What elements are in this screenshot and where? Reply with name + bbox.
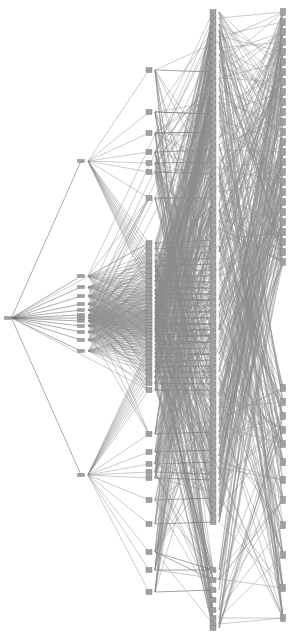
graph-node[interactable]: [146, 375, 152, 380]
graph-node[interactable]: [210, 154, 216, 159]
graph-node[interactable]: [210, 568, 216, 573]
graph-node[interactable]: [210, 340, 216, 345]
graph-node[interactable]: [146, 247, 152, 252]
graph-node[interactable]: [210, 358, 216, 363]
graph-node[interactable]: [146, 522, 152, 527]
graph-node[interactable]: [146, 381, 152, 386]
graph-node[interactable]: [210, 274, 216, 279]
graph-node[interactable]: [146, 370, 152, 375]
graph-node[interactable]: [281, 79, 286, 86]
graph-node[interactable]: [281, 169, 286, 176]
graph-node[interactable]: [281, 39, 286, 46]
graph-node[interactable]: [146, 170, 152, 175]
graph-node[interactable]: [281, 209, 286, 216]
graph-node[interactable]: [281, 19, 286, 26]
graph-node[interactable]: [146, 196, 152, 201]
graph-node[interactable]: [210, 16, 216, 21]
graph-node[interactable]: [210, 238, 216, 243]
graph-node[interactable]: [146, 355, 152, 360]
graph-node[interactable]: [210, 88, 216, 93]
graph-node[interactable]: [146, 150, 152, 155]
graph-node[interactable]: [210, 418, 216, 423]
graph-node[interactable]: [210, 292, 216, 297]
graph-node[interactable]: [281, 199, 286, 206]
graph-node[interactable]: [78, 286, 85, 289]
graph-node[interactable]: [210, 34, 216, 39]
graph-node[interactable]: [281, 129, 286, 136]
graph-node[interactable]: [210, 94, 216, 99]
graph-node[interactable]: [281, 69, 286, 76]
graph-node[interactable]: [210, 514, 216, 519]
graph-node[interactable]: [210, 442, 216, 447]
graph-node[interactable]: [210, 388, 216, 393]
graph-node[interactable]: [210, 280, 216, 285]
graph-node[interactable]: [210, 424, 216, 429]
graph-node[interactable]: [281, 159, 286, 166]
graph-node[interactable]: [281, 399, 286, 406]
graph-node[interactable]: [210, 52, 216, 57]
graph-node[interactable]: [146, 360, 152, 365]
graph-node[interactable]: [146, 131, 152, 136]
graph-node[interactable]: [146, 388, 152, 393]
graph-node[interactable]: [281, 59, 286, 66]
graph-node[interactable]: [210, 322, 216, 327]
graph-node[interactable]: [78, 339, 85, 342]
graph-node[interactable]: [210, 508, 216, 513]
graph-node[interactable]: [281, 385, 286, 392]
graph-node[interactable]: [210, 76, 216, 81]
graph-node[interactable]: [210, 352, 216, 357]
graph-node[interactable]: [210, 232, 216, 237]
graph-node[interactable]: [210, 436, 216, 441]
graph-node[interactable]: [210, 196, 216, 201]
graph-node[interactable]: [210, 40, 216, 45]
graph-node[interactable]: [78, 303, 85, 306]
graph-node[interactable]: [210, 472, 216, 477]
graph-node[interactable]: [281, 49, 286, 56]
graph-node[interactable]: [146, 110, 152, 115]
graph-node[interactable]: [210, 466, 216, 471]
graph-node[interactable]: [210, 364, 216, 369]
graph-node[interactable]: [210, 70, 216, 75]
graph-node[interactable]: [146, 259, 152, 264]
graph-node[interactable]: [210, 412, 216, 417]
graph-node[interactable]: [146, 476, 152, 481]
graph-node[interactable]: [210, 490, 216, 495]
graph-node[interactable]: [210, 478, 216, 483]
graph-node[interactable]: [78, 295, 85, 298]
graph-node[interactable]: [210, 82, 216, 87]
graph-node[interactable]: [281, 249, 286, 256]
graph-node[interactable]: [210, 184, 216, 189]
graph-node[interactable]: [210, 502, 216, 507]
graph-node[interactable]: [210, 334, 216, 339]
graph-node[interactable]: [210, 220, 216, 225]
graph-node[interactable]: [210, 598, 216, 603]
graph-node[interactable]: [281, 229, 286, 236]
graph-node[interactable]: [210, 588, 216, 593]
graph-node[interactable]: [146, 432, 152, 437]
graph-node[interactable]: [78, 275, 85, 278]
graph-node[interactable]: [210, 520, 216, 525]
graph-node[interactable]: [146, 253, 152, 258]
graph-node[interactable]: [78, 317, 85, 320]
graph-node[interactable]: [210, 376, 216, 381]
graph-node[interactable]: [210, 256, 216, 261]
graph-node[interactable]: [210, 250, 216, 255]
graph-node[interactable]: [210, 578, 216, 583]
graph-node[interactable]: [281, 585, 286, 592]
graph-node[interactable]: [210, 118, 216, 123]
graph-node[interactable]: [210, 166, 216, 171]
graph-node[interactable]: [281, 259, 286, 266]
graph-node[interactable]: [210, 28, 216, 33]
graph-node[interactable]: [281, 9, 286, 16]
graph-node[interactable]: [210, 298, 216, 303]
graph-node[interactable]: [146, 590, 152, 595]
graph-node[interactable]: [210, 106, 216, 111]
graph-node[interactable]: [210, 226, 216, 231]
graph-node[interactable]: [210, 328, 216, 333]
graph-node[interactable]: [210, 22, 216, 27]
graph-node[interactable]: [78, 309, 85, 312]
graph-node[interactable]: [146, 568, 152, 573]
graph-node[interactable]: [281, 29, 286, 36]
graph-node[interactable]: [281, 99, 286, 106]
graph-node[interactable]: [146, 498, 152, 503]
